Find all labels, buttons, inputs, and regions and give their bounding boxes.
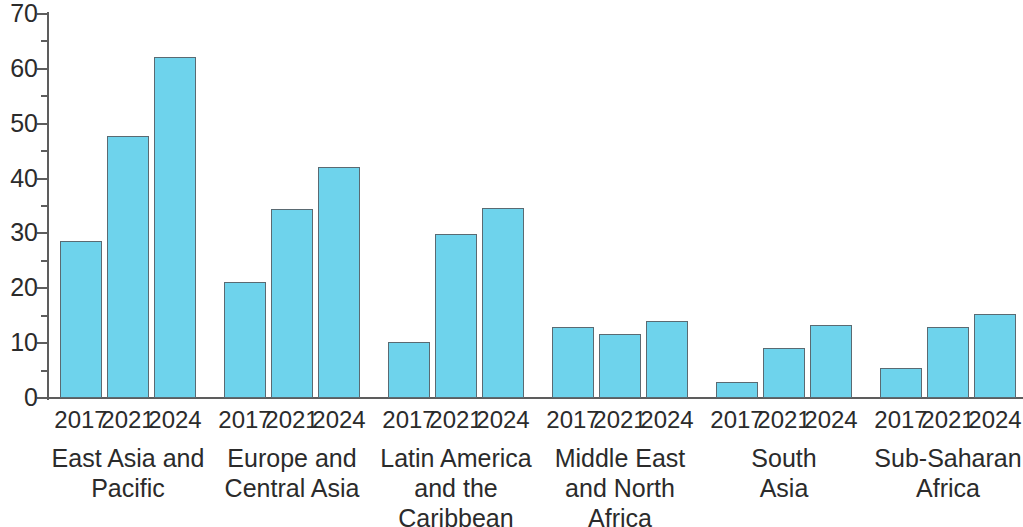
bar <box>435 234 477 398</box>
x-axis-year-label: 2017 <box>218 406 272 434</box>
bar <box>154 57 196 398</box>
bar <box>552 327 594 398</box>
x-axis-year-label: 2021 <box>265 406 319 434</box>
x-axis-year-label: 2024 <box>804 406 858 434</box>
bar <box>107 136 149 398</box>
x-axis-year-label: 2021 <box>757 406 811 434</box>
x-axis-year-label: 2024 <box>148 406 202 434</box>
bar <box>271 209 313 398</box>
bar <box>646 321 688 398</box>
bar <box>810 325 852 399</box>
x-axis-year-label: 2017 <box>54 406 108 434</box>
x-axis-year-label: 2024 <box>476 406 530 434</box>
x-axis-year-label: 2024 <box>968 406 1022 434</box>
x-axis-year-label: 2017 <box>382 406 436 434</box>
group-label-line: Sub-Saharan <box>848 443 1023 473</box>
x-axis-year-label: 2021 <box>921 406 975 434</box>
x-axis-year-label: 2021 <box>593 406 647 434</box>
bar <box>388 342 430 399</box>
x-axis-year-label: 2021 <box>101 406 155 434</box>
bar <box>482 208 524 398</box>
x-axis-year-label: 2017 <box>710 406 764 434</box>
bar <box>60 241 102 398</box>
bar <box>224 282 266 398</box>
group-label-line: Africa <box>520 503 720 527</box>
x-axis-year-label: 2017 <box>546 406 600 434</box>
bar <box>974 314 1016 398</box>
group-label-line: Africa <box>848 473 1023 503</box>
bar <box>318 167 360 398</box>
x-axis-group-label: Sub-SaharanAfrica <box>848 443 1023 503</box>
x-axis-year-label: 2017 <box>874 406 928 434</box>
bar <box>880 368 922 398</box>
bar <box>763 348 805 398</box>
bar <box>716 382 758 398</box>
bars-layer <box>0 0 1023 398</box>
x-axis-year-label: 2024 <box>312 406 366 434</box>
bar-chart: 010203040506070 201720212024201720212024… <box>0 0 1023 527</box>
x-axis-year-label: 2021 <box>429 406 483 434</box>
bar <box>927 327 969 398</box>
x-axis-year-label: 2024 <box>640 406 694 434</box>
bar <box>599 334 641 398</box>
